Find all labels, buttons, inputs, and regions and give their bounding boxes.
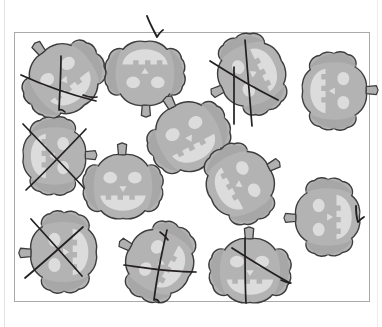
pumpkin-glyph: [1, 16, 118, 132]
pumpkin-9[interactable]: Pumpkin 9: [284, 178, 360, 256]
pumpkin-glyph: [101, 204, 208, 313]
pumpkin-glyph: [284, 178, 360, 256]
pumpkin-11[interactable]: Pumpkin 11: [101, 204, 208, 313]
pumpkin-10[interactable]: Pumpkin 10: [19, 211, 97, 293]
pumpkin-canvas: Pumpkin 1Pumpkin 2Pumpkin 3Pumpkin 4Pump…: [0, 0, 382, 327]
worksheet-page: Pumpkin 1Pumpkin 2Pumpkin 3Pumpkin 4Pump…: [0, 0, 382, 327]
pumpkin-glyph: [302, 52, 378, 130]
pumpkin-1[interactable]: Pumpkin 1: [1, 16, 118, 132]
pumpkin-12[interactable]: Pumpkin 12: [209, 227, 291, 303]
pumpkin-glyph: [209, 227, 291, 303]
pumpkin-glyph: [19, 211, 97, 293]
pumpkin-4[interactable]: Pumpkin 4: [302, 52, 378, 130]
